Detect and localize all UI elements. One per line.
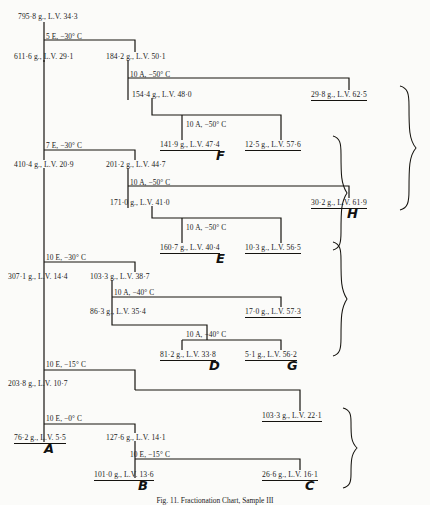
fractionation-chart: 795·8 g., L.V. 34·3611·6 g., L.V. 29·118… — [0, 0, 430, 505]
fraction-letter-e: E — [216, 251, 225, 266]
fraction-letter-c: C — [305, 478, 315, 493]
group-brace-outer — [396, 84, 420, 212]
intermediate-node: 203·8 g., L.V. 10·7 — [8, 379, 68, 388]
fraction-node: 76·2 g., L.V. 5·5 — [14, 433, 66, 444]
fraction-letter-h: H — [347, 206, 358, 221]
branch-condition-label: 10 A, −50° C — [130, 178, 170, 187]
fraction-node: 81·2 g., L.V. 33·8 — [160, 350, 216, 361]
intermediate-node: 171·0 g., L.V. 41·0 — [110, 198, 170, 207]
branch-condition-label: 10 A, −50° C — [130, 70, 170, 79]
fraction-letter-f: F — [216, 148, 225, 163]
fraction-node: 160·7 g., L.V. 40·4 — [160, 243, 220, 254]
branch-condition-label: 10 E, −0° C — [46, 414, 82, 423]
fraction-letter-a: A — [44, 441, 54, 456]
fraction-node: 141·9 g., L.V. 47·4 — [160, 140, 220, 151]
group-brace-bottom — [340, 406, 360, 490]
intermediate-node: 795·8 g., L.V. 34·3 — [18, 12, 78, 21]
branch-condition-label: 10 A, −40° C — [114, 288, 154, 297]
branch-condition-label: 10 A, −50° C — [186, 120, 226, 129]
branch-condition-label: 7 E, −30° C — [46, 141, 82, 150]
fraction-letter-g: G — [287, 358, 298, 373]
intermediate-node: 184·2 g., L.V. 50·1 — [106, 52, 166, 61]
fraction-letter-b: B — [138, 478, 148, 493]
fraction-node: 10·3 g., L.V. 56·5 — [245, 243, 301, 254]
intermediate-node: 86·3 g., L.V. 35·4 — [90, 307, 146, 316]
intermediate-node: 410·4 g., L.V. 20·9 — [14, 160, 74, 169]
intermediate-node: 611·6 g., L.V. 29·1 — [14, 52, 73, 61]
fraction-node: 30·2 g., L.V. 61·9 — [311, 198, 367, 209]
branch-condition-label: 10 A, −50° C — [186, 223, 226, 232]
group-brace-upper — [330, 134, 350, 252]
intermediate-node: 307·1 g., L.V. 14·4 — [8, 272, 68, 281]
intermediate-node: 103·3 g., L.V. 38·7 — [90, 272, 150, 281]
branch-condition-label: 10 E, −15° C — [46, 360, 86, 369]
figure-caption: Fig. 11. Fractionation Chart, Sample III — [0, 496, 430, 505]
fraction-node: 17·0 g., L.V. 57·3 — [245, 307, 301, 318]
group-brace-lower — [330, 240, 350, 358]
branch-condition-label: 10 A, −40° C — [186, 330, 226, 339]
fraction-node: 12·5 g., L.V. 57·6 — [245, 140, 301, 151]
fraction-letter-d: D — [209, 358, 220, 373]
fraction-node: 29·8 g., L.V. 62·5 — [311, 90, 367, 101]
branch-condition-label: 5 E, −30° C — [46, 32, 82, 41]
intermediate-node: 154·4 g., L.V. 48·0 — [132, 90, 192, 99]
intermediate-node: 201·2 g., L.V. 44·7 — [106, 160, 166, 169]
fraction-node: 103·3 g., L.V. 22·1 — [262, 411, 322, 422]
branch-condition-label: 10 E, −30° C — [46, 253, 86, 262]
branch-condition-label: 10 E, −15° C — [130, 450, 170, 459]
intermediate-node: 127·6 g., L.V. 14·1 — [106, 433, 166, 442]
